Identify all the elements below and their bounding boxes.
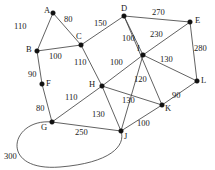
edge-g-j-curved <box>17 122 122 168</box>
edge-weight-i-j: 120 <box>134 75 147 84</box>
edge-weight-a-b: 110 <box>14 22 26 31</box>
node-l <box>195 79 200 84</box>
node-label-l: L <box>201 76 206 85</box>
edge-weight-h-i: 100 <box>110 58 123 67</box>
edge-weight-e-l: 280 <box>194 44 207 53</box>
graph-canvas <box>0 0 215 170</box>
edge-h-j <box>102 86 121 131</box>
edge-weight-g-h: 110 <box>65 93 77 102</box>
edge-weight-d-k: 230 <box>150 30 163 39</box>
node-h <box>100 84 105 89</box>
edge-weight-g-j: 250 <box>75 128 88 137</box>
edge-weight-c-h: 110 <box>74 58 86 67</box>
edge-b-f <box>37 51 42 84</box>
curved-edges-layer <box>17 122 122 168</box>
node-label-j: J <box>124 132 127 141</box>
edge-weight-i-l: 130 <box>160 55 173 64</box>
edge-weight-d-i: 100 <box>122 34 135 43</box>
node-k <box>160 103 165 108</box>
edge-weight-b-c: 100 <box>49 52 62 61</box>
node-label-k: K <box>165 104 171 113</box>
nodes-layer <box>35 11 200 134</box>
node-j <box>119 129 124 134</box>
edge-weight-h-k: 130 <box>122 96 135 105</box>
node-label-c: C <box>76 32 82 41</box>
edge-weight-a-c: 80 <box>64 15 73 24</box>
node-b <box>35 49 40 54</box>
edge-weight-c-d: 150 <box>94 19 107 28</box>
node-g <box>50 120 55 125</box>
edge-weight-g-j: 300 <box>4 152 17 161</box>
node-label-h: H <box>89 80 95 89</box>
weighted-graph-figure: 1108010015011090801102503002701002302801… <box>0 0 215 170</box>
node-label-g: G <box>41 123 47 132</box>
edge-weight-b-f: 90 <box>28 70 37 79</box>
edge-weight-k-l: 90 <box>172 91 181 100</box>
edge-weight-h-j: 130 <box>92 110 105 119</box>
node-a <box>51 11 56 16</box>
edge-weight-d-e: 270 <box>152 8 165 17</box>
node-label-b: B <box>26 45 32 54</box>
node-label-d: D <box>121 4 127 13</box>
node-label-i: I <box>137 44 140 53</box>
node-i <box>141 53 146 58</box>
node-e <box>188 20 193 25</box>
edge-weight-j-k: 100 <box>137 119 150 128</box>
edges-layer <box>37 13 197 131</box>
node-label-a: A <box>44 6 50 15</box>
node-d <box>122 14 127 19</box>
node-label-f: F <box>46 79 51 88</box>
edge-a-b <box>37 13 53 51</box>
node-label-e: E <box>195 16 200 25</box>
node-c <box>79 43 84 48</box>
edge-weight-f-g: 80 <box>36 104 45 113</box>
node-f <box>40 82 45 87</box>
